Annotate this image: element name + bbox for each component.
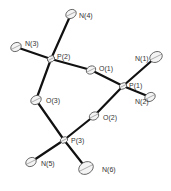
bond-p1-o2 <box>94 86 123 116</box>
atom-label: O(1) <box>99 65 113 73</box>
atom-o3 <box>29 94 43 107</box>
atom-n4 <box>64 8 78 21</box>
atom-label: N(5) <box>41 160 55 168</box>
atom-label: N(6) <box>102 166 116 174</box>
bond-p2-o1 <box>51 59 91 70</box>
bond-p3-n5 <box>31 140 64 162</box>
atom-label: N(3) <box>25 40 39 48</box>
atom-label: O(2) <box>103 114 117 122</box>
atom-n3 <box>9 41 23 54</box>
atom-label: O(3) <box>46 97 60 105</box>
atom-o1 <box>85 64 97 76</box>
atom-label: N(4) <box>79 12 93 20</box>
bond-p2-n3 <box>16 47 51 59</box>
atom-label: N(1) <box>135 55 149 63</box>
atom-label: P(2) <box>57 53 70 61</box>
bonds-layer <box>16 14 156 168</box>
atom-p2 <box>46 54 56 63</box>
bond-o3-p3 <box>36 100 64 140</box>
atom-n6 <box>76 159 95 177</box>
atom-label: P(1) <box>129 82 142 90</box>
ortep-molecule-diagram: N(4)N(3)P(2)O(1)N(1)P(1)N(2)O(3)O(2)P(3)… <box>0 0 171 191</box>
bond-o1-p1 <box>91 70 123 86</box>
labels-layer: N(4)N(3)P(2)O(1)N(1)P(1)N(2)O(3)O(2)P(3)… <box>25 12 149 174</box>
bond-p2-o3 <box>36 59 51 100</box>
atom-label: N(2) <box>135 98 149 106</box>
atom-label: P(3) <box>71 137 84 145</box>
